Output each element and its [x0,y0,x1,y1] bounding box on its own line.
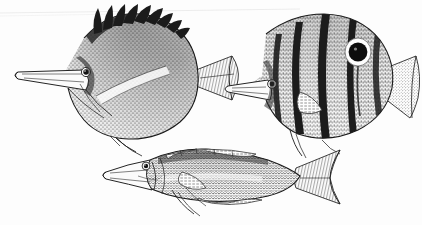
illustration-plate [0,0,422,225]
fish-3-eye [142,162,150,170]
plate-canvas [0,0,422,225]
